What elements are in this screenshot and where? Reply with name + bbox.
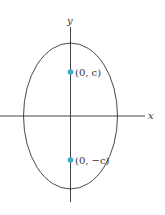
x-axis-label: x — [148, 110, 154, 121]
focus-lower-point — [68, 157, 74, 163]
focus-upper-point — [68, 69, 74, 75]
ellipse-diagram: y x (0, c) (0, −c) — [0, 0, 165, 215]
focus-lower-label: (0, −c) — [75, 155, 110, 166]
focus-upper-label: (0, c) — [75, 67, 101, 78]
y-axis-label: y — [66, 15, 73, 26]
